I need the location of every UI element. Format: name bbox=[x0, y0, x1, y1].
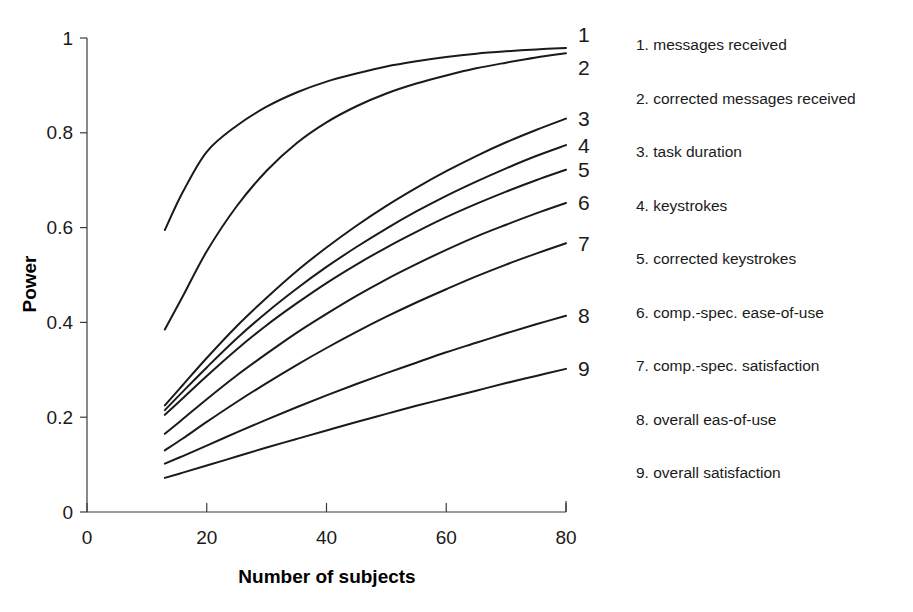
y-axis-title: Power bbox=[19, 255, 40, 313]
curve-number-label: 1 bbox=[578, 23, 590, 46]
x-axis-ticks bbox=[87, 503, 566, 512]
x-tick-label: 40 bbox=[316, 527, 337, 548]
curve-number-label: 4 bbox=[578, 134, 590, 157]
power-curve-figure: 00.20.40.60.81 020406080 123456789 Numbe… bbox=[0, 0, 913, 612]
legend-item: 3. task duration bbox=[636, 143, 906, 197]
y-axis-ticks bbox=[80, 38, 87, 512]
legend: 1. messages received 2. corrected messag… bbox=[636, 36, 906, 518]
legend-item: 2. corrected messages received bbox=[636, 90, 906, 144]
x-tick-label: 60 bbox=[436, 527, 457, 548]
legend-item: 1. messages received bbox=[636, 36, 906, 90]
x-axis-title: Number of subjects bbox=[238, 566, 415, 587]
legend-item: 9. overall satisfaction bbox=[636, 464, 906, 518]
y-tick-label: 0.4 bbox=[47, 312, 74, 333]
curve-number-label: 3 bbox=[578, 107, 590, 130]
y-tick-label: 1 bbox=[62, 28, 73, 49]
x-tick-label: 0 bbox=[82, 527, 93, 548]
legend-item: 5. corrected keystrokes bbox=[636, 250, 906, 304]
data-curve bbox=[165, 119, 566, 406]
x-axis-tick-labels: 020406080 bbox=[82, 527, 577, 548]
data-curve bbox=[165, 203, 566, 434]
y-tick-label: 0.8 bbox=[47, 122, 73, 143]
x-tick-label: 20 bbox=[196, 527, 217, 548]
data-curve bbox=[165, 48, 566, 230]
y-tick-label: 0 bbox=[62, 502, 73, 523]
curve-number-label: 5 bbox=[578, 158, 590, 181]
curve-number-label: 8 bbox=[578, 304, 590, 327]
data-curves bbox=[165, 48, 566, 478]
data-curve bbox=[165, 145, 566, 410]
curve-end-labels: 123456789 bbox=[578, 23, 590, 380]
legend-item: 8. overall eas-of-use bbox=[636, 411, 906, 465]
y-tick-label: 0.2 bbox=[47, 407, 73, 428]
curve-number-label: 6 bbox=[578, 191, 590, 214]
legend-item: 7. comp.-spec. satisfaction bbox=[636, 357, 906, 411]
curve-number-label: 2 bbox=[578, 56, 590, 79]
curve-number-label: 7 bbox=[578, 232, 590, 255]
y-axis-tick-labels: 00.20.40.60.81 bbox=[47, 28, 74, 523]
x-tick-label: 80 bbox=[555, 527, 576, 548]
data-curve bbox=[165, 170, 566, 415]
y-tick-label: 0.6 bbox=[47, 217, 73, 238]
legend-item: 6. comp.-spec. ease-of-use bbox=[636, 304, 906, 358]
legend-item: 4. keystrokes bbox=[636, 197, 906, 251]
curve-number-label: 9 bbox=[578, 357, 590, 380]
